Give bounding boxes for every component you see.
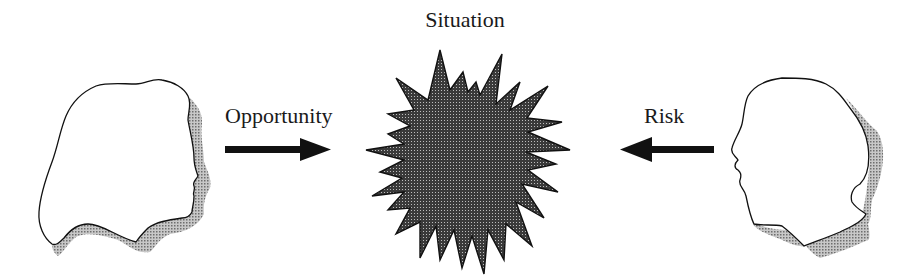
right-head-outline [732, 78, 869, 246]
risk-label: Risk [644, 105, 684, 127]
opportunity-label: Opportunity [225, 105, 333, 127]
situation-label: Situation [425, 9, 504, 31]
diagram-canvas [0, 0, 924, 279]
left-head-figure [39, 80, 211, 256]
right-head-figure [732, 78, 884, 258]
left-head-outline [39, 80, 198, 245]
situation-starburst [366, 50, 570, 274]
opportunity-arrow [225, 138, 331, 161]
risk-arrow [620, 137, 714, 162]
